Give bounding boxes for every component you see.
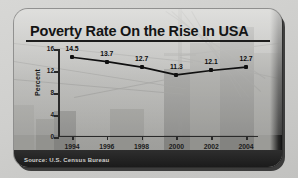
source-text: Source: U.S. Census Bureau [24,157,109,163]
data-point [140,65,144,69]
data-point-label: 13.7 [96,51,118,58]
data-point [244,65,248,69]
chart-plot-area: Percent 0481216 199419961998200020022004… [58,49,258,137]
y-tick-label: 12 [38,68,54,75]
data-point-label: 11.3 [165,64,187,71]
data-point-label: 12.7 [131,56,153,63]
data-point-label: 14.5 [61,46,83,53]
data-point-label: 12.7 [235,56,257,63]
data-point-label: 12.1 [200,59,222,66]
infographic-root: Poverty Rate On the Rise In USA Percent … [0,0,298,178]
title-underline [26,40,270,42]
y-tick-label: 16 [38,46,54,53]
y-tick [54,137,59,139]
page-title: Poverty Rate On the Rise In USA [30,23,249,39]
data-point [70,55,74,59]
data-point [174,73,178,77]
y-tick-label: 0 [38,134,54,141]
poverty-rate-line [58,49,258,137]
y-tick-label: 4 [38,112,54,119]
infographic-card: Poverty Rate On the Rise In USA Percent … [14,9,282,167]
data-point [105,60,109,64]
y-tick-label: 8 [38,90,54,97]
